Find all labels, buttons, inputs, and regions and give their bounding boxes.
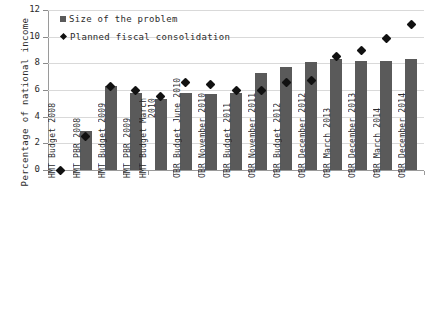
x-axis-tick-label: HMT Budget 2008 [48, 103, 57, 178]
x-axis-tick-label: OBR Budget June 2010 [173, 78, 182, 178]
square-marker-icon [60, 16, 66, 22]
x-axis-tick-label: OBR November 2010 [198, 93, 207, 178]
x-axis-tick-label: HMT Budget 2009 [98, 103, 107, 178]
x-axis-tick-label: OBR November 2011 [248, 93, 257, 178]
x-axis-tick-label: OBR December 2012 [298, 93, 307, 178]
x-axis-tick-label: OBR March 2013 [323, 108, 332, 178]
chart-legend: Size of the problem Planned fiscal conso… [60, 14, 230, 50]
x-axis-tick-label: HMT PBR 2009 [123, 118, 132, 178]
x-axis-tick-label: OBR Budget 2012 [273, 103, 282, 178]
chart-container: Percentage of national income 024681012 … [0, 0, 429, 310]
x-axis-tick-label: OBR December 2013 [348, 93, 357, 178]
diamond-marker-icon [60, 33, 67, 40]
x-axis-tick-label: OBR Budget 2011 [223, 103, 232, 178]
legend-item-size-of-the-problem: Size of the problem [60, 14, 230, 25]
x-axis-tick-label: OBR December 2014 [398, 93, 407, 178]
x-axis-tick-label: OBR March 2014 [373, 108, 382, 178]
x-axis-tick-label: HMT Budget March 2010 [139, 98, 157, 178]
legend-item-planned-fiscal-consolidation: Planned fiscal consolidation [60, 32, 230, 43]
legend-label: Planned fiscal consolidation [70, 32, 230, 43]
legend-label: Size of the problem [69, 14, 178, 25]
x-axis-tick-label: HMT PBR 2008 [73, 118, 82, 178]
